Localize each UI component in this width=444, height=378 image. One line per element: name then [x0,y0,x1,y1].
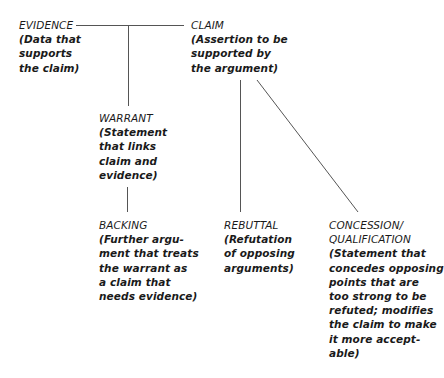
claim-node: CLAIM (Assertion to be supported by the … [191,18,288,75]
concession-title: CONCESSION/ [329,218,444,232]
warrant-description: (Statement that links claim and evidence… [99,125,167,182]
backing-title: BACKING [99,218,199,232]
backing-description: (Further argu- ment that treats the warr… [99,232,199,303]
rebuttal-description: (Refutation of opposing arguments) [224,232,295,275]
concession-node: CONCESSION/ QUALIFICATION (Statement tha… [329,218,444,360]
evidence-title: EVIDENCE [19,18,81,32]
warrant-title: WARRANT [99,111,167,125]
evidence-node: EVIDENCE (Data that supports the claim) [19,18,81,75]
claim-concession-connector [257,80,358,212]
rebuttal-node: REBUTTAL (Refutation of opposing argumen… [224,218,295,275]
warrant-node: WARRANT (Statement that links claim and … [99,111,167,182]
claim-title: CLAIM [191,18,288,32]
concession-description: (Statement that concedes opposing points… [329,246,444,360]
qualification-title: QUALIFICATION [329,232,444,246]
rebuttal-title: REBUTTAL [224,218,295,232]
backing-node: BACKING (Further argu- ment that treats … [99,218,199,303]
claim-description: (Assertion to be supported by the argume… [191,32,288,75]
evidence-description: (Data that supports the claim) [19,32,81,75]
